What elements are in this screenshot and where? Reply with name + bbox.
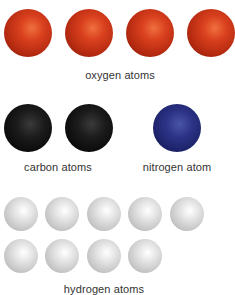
hydrogen-atom [45,239,79,273]
nitrogen-atom [153,104,201,152]
hydrogen-atom [4,239,38,273]
carbon-label: carbon atoms [24,161,92,173]
oxygen-atom [65,9,113,57]
hydrogen-atom [87,239,121,273]
hydrogen-atom [45,197,79,231]
hydrogen-label: hydrogen atoms [64,283,144,295]
oxygen-atom [126,9,174,57]
carbon-atom [4,104,52,152]
hydrogen-atom [170,197,204,231]
hydrogen-atom [87,197,121,231]
oxygen-atom [4,9,52,57]
hydrogen-atom [128,239,162,273]
nitrogen-label: nitrogen atom [143,161,212,173]
oxygen-label: oxygen atoms [85,69,155,81]
carbon-atom [65,104,113,152]
hydrogen-atom [4,197,38,231]
hydrogen-atom [128,197,162,231]
oxygen-atom [187,9,235,57]
